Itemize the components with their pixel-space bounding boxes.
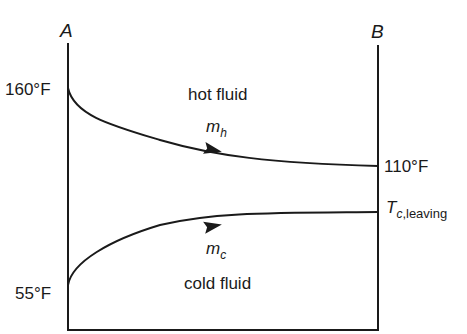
cold-outlet-subscript-leaving: ,leaving: [402, 206, 447, 221]
hot-mass-flow-label: mh: [206, 118, 227, 135]
cold-outlet-temperature-label: Tc,leaving: [386, 199, 447, 216]
cold-fluid-label: cold fluid: [184, 275, 251, 292]
end-label-b: B: [371, 22, 384, 41]
hot-mass-flow-symbol: m: [206, 117, 220, 136]
end-label-a: A: [60, 21, 73, 40]
cold-mass-flow-label: mc: [206, 240, 226, 257]
hot-flow-arrow-icon: [203, 142, 223, 157]
hot-mass-flow-subscript: h: [220, 126, 227, 140]
cold-inlet-temperature: 55°F: [15, 285, 51, 302]
cold-mass-flow-symbol: m: [206, 239, 220, 258]
cold-outlet-symbol: T: [386, 198, 396, 217]
hot-inlet-temperature: 160°F: [5, 81, 51, 98]
cold-mass-flow-subscript: c: [220, 248, 226, 262]
cold-flow-arrow-icon: [203, 219, 223, 234]
hot-outlet-temperature: 110°F: [384, 158, 428, 175]
hot-fluid-label: hot fluid: [188, 86, 248, 103]
